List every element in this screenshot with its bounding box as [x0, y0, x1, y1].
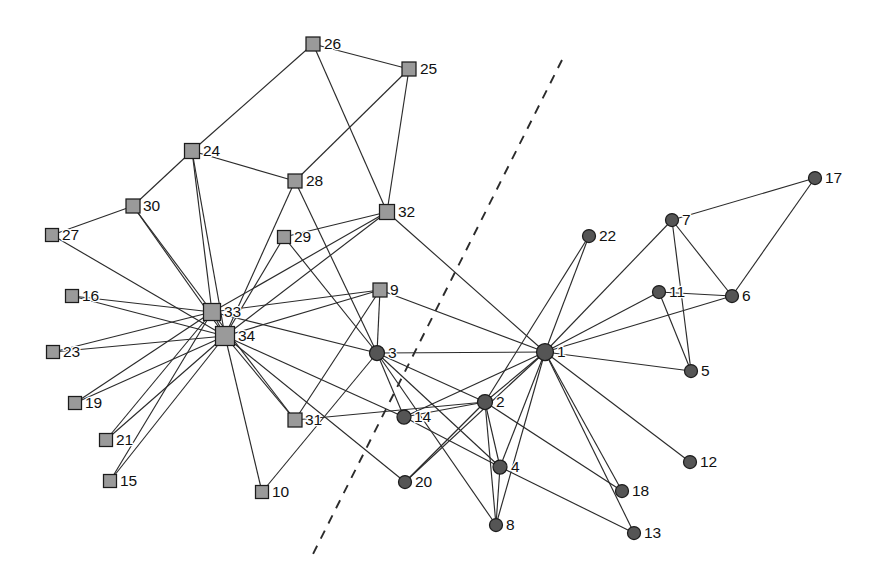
graph-node-10[interactable] — [256, 486, 269, 499]
network-graph-canvas: 1234567891011121314151617181920212223242… — [0, 0, 881, 583]
graph-node-34[interactable] — [216, 327, 235, 346]
graph-node-label-32: 32 — [398, 203, 415, 220]
graph-node-28[interactable] — [288, 174, 302, 188]
graph-edge — [377, 352, 545, 353]
graph-node-label-16: 16 — [82, 287, 99, 304]
graph-edge — [732, 178, 815, 296]
graph-node-18[interactable] — [616, 485, 629, 498]
graph-node-8[interactable] — [490, 519, 503, 532]
graph-node-15[interactable] — [104, 475, 117, 488]
graph-node-17[interactable] — [809, 172, 822, 185]
graph-edge — [110, 312, 212, 481]
graph-node-label-20: 20 — [415, 473, 433, 490]
graph-edge — [75, 336, 225, 403]
graph-edge — [133, 151, 192, 206]
graph-node-30[interactable] — [126, 199, 140, 213]
graph-node-label-26: 26 — [324, 35, 341, 52]
graph-edge — [672, 178, 815, 220]
graph-node-33[interactable] — [204, 304, 221, 321]
graph-edge — [295, 181, 377, 353]
graph-edge — [545, 236, 589, 352]
graph-node-label-23: 23 — [63, 343, 80, 360]
graph-node-label-33: 33 — [224, 303, 241, 320]
graph-node-label-19: 19 — [85, 394, 102, 411]
graph-node-label-12: 12 — [700, 453, 717, 470]
graph-node-11[interactable] — [653, 286, 666, 299]
graph-node-29[interactable] — [278, 231, 291, 244]
graph-node-label-29: 29 — [294, 228, 311, 245]
graph-edge — [545, 296, 732, 352]
graph-edge — [75, 312, 212, 403]
graph-node-label-2: 2 — [496, 393, 505, 410]
graph-node-12[interactable] — [684, 456, 697, 469]
graph-node-24[interactable] — [185, 144, 200, 159]
graph-edge — [225, 336, 262, 492]
graph-node-20[interactable] — [399, 476, 412, 489]
graph-node-label-18: 18 — [632, 482, 649, 499]
graph-edge — [485, 402, 500, 467]
graph-edge — [387, 69, 409, 212]
graph-edge — [377, 353, 496, 525]
graph-node-5[interactable] — [685, 365, 698, 378]
graph-node-23[interactable] — [47, 346, 60, 359]
graph-edge — [380, 290, 545, 352]
graph-node-label-21: 21 — [116, 431, 133, 448]
graph-edge — [545, 352, 634, 533]
graph-node-13[interactable] — [628, 527, 641, 540]
graph-node-22[interactable] — [583, 230, 596, 243]
graph-edge — [387, 212, 545, 352]
graph-node-label-34: 34 — [238, 327, 256, 344]
graph-node-label-1: 1 — [557, 343, 566, 360]
graph-node-label-28: 28 — [306, 172, 323, 189]
graph-edge — [313, 44, 387, 212]
graph-edge — [377, 353, 404, 417]
graph-node-label-6: 6 — [742, 287, 751, 304]
graph-node-label-25: 25 — [420, 60, 437, 77]
graph-node-21[interactable] — [100, 434, 113, 447]
graph-edge — [496, 352, 545, 525]
graph-edge — [377, 290, 380, 353]
graph-node-label-9: 9 — [390, 281, 399, 298]
graph-edge — [212, 212, 387, 312]
graph-node-9[interactable] — [373, 283, 387, 297]
graph-edge — [545, 352, 622, 491]
graph-node-14[interactable] — [397, 410, 411, 424]
graph-node-3[interactable] — [370, 346, 385, 361]
graph-node-label-24: 24 — [203, 142, 221, 159]
graph-node-label-30: 30 — [143, 197, 161, 214]
graph-node-label-11: 11 — [669, 283, 685, 300]
graph-edge — [106, 336, 225, 440]
graph-node-31[interactable] — [288, 413, 302, 427]
graph-node-label-10: 10 — [272, 483, 290, 500]
graph-node-label-13: 13 — [644, 524, 661, 541]
graph-node-label-15: 15 — [120, 472, 137, 489]
graph-edge — [192, 151, 212, 312]
graph-node-19[interactable] — [69, 397, 82, 410]
network-graph-figure: 1234567891011121314151617181920212223242… — [0, 0, 881, 583]
graph-node-26[interactable] — [306, 37, 320, 51]
divider-layer — [312, 60, 562, 556]
graph-node-32[interactable] — [380, 205, 395, 220]
dashed-partition-line — [312, 60, 562, 556]
graph-node-6[interactable] — [726, 290, 739, 303]
graph-node-2[interactable] — [478, 395, 493, 410]
graph-edge — [192, 44, 313, 151]
graph-node-1[interactable] — [537, 344, 554, 361]
graph-edge — [295, 69, 409, 181]
graph-edge — [106, 312, 212, 440]
graph-node-4[interactable] — [493, 460, 507, 474]
graph-edge — [52, 235, 225, 336]
graph-edge — [485, 402, 622, 491]
graph-node-label-17: 17 — [825, 169, 842, 186]
graph-node-25[interactable] — [402, 62, 416, 76]
graph-node-label-7: 7 — [682, 211, 691, 228]
graph-node-label-5: 5 — [701, 362, 710, 379]
graph-node-16[interactable] — [66, 290, 79, 303]
graph-node-label-31: 31 — [305, 411, 322, 428]
graph-edge — [110, 336, 225, 481]
graph-edge — [485, 236, 589, 402]
graph-node-label-22: 22 — [599, 227, 616, 244]
graph-edge — [485, 352, 545, 402]
graph-node-7[interactable] — [666, 214, 679, 227]
graph-node-27[interactable] — [46, 229, 59, 242]
